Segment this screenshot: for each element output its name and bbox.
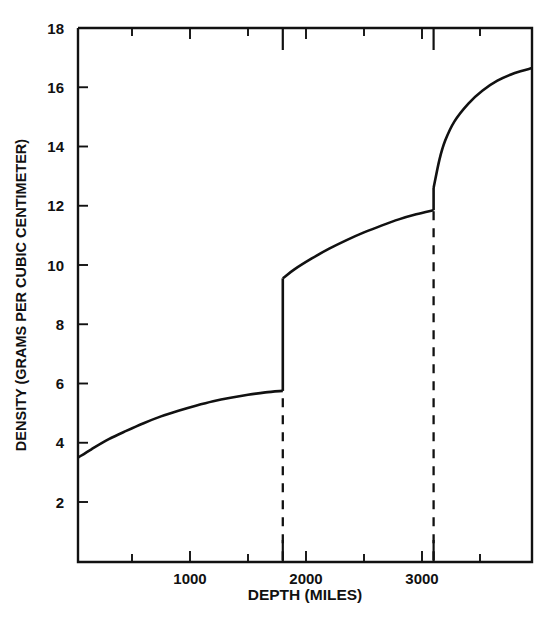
density-depth-chart: 24681012141618 100020003000 DEPTH (MILES… [0, 0, 547, 623]
y-tick-label-6: 6 [56, 375, 64, 392]
y-tick-label-18: 18 [47, 20, 64, 37]
y-tick-label-8: 8 [56, 316, 64, 333]
y-tick-label-2: 2 [56, 494, 64, 511]
y-tick-label-14: 14 [47, 138, 64, 155]
y-tick-label-4: 4 [56, 434, 65, 451]
y-tick-label-12: 12 [47, 197, 64, 214]
y-tick-label-10: 10 [47, 257, 64, 274]
chart-background [0, 0, 547, 623]
y-axis-label: DENSITY (GRAMS PER CUBIC CENTIMETER) [13, 139, 29, 451]
x-tick-label-2000: 2000 [289, 570, 322, 587]
y-tick-label-16: 16 [47, 79, 64, 96]
x-axis-label: DEPTH (MILES) [248, 586, 363, 603]
x-tick-label-1000: 1000 [173, 570, 206, 587]
x-tick-label-3000: 3000 [405, 570, 438, 587]
